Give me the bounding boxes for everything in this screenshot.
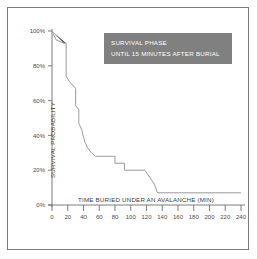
x-tick-label: 120 [141,214,152,220]
x-tick-marks [52,205,241,211]
x-tick-label: 220 [220,214,231,220]
y-tick-label: 60% [33,98,46,104]
y-tick-label: 40% [33,133,46,139]
x-tick-label: 20 [64,214,71,220]
x-tick-label: 200 [204,214,215,220]
y-tick-label: 80% [33,63,46,69]
y-tick-label: 0% [36,202,45,208]
annotation-box: SURVIVAL PHASE UNTIL 15 MINUTES AFTER BU… [104,33,232,64]
y-tick-labels: 0%20%40%60%80%100% [30,28,46,208]
y-tick-label: 100% [30,28,46,34]
y-tick-label: 20% [33,167,46,173]
x-tick-labels: 020406080100120140160180200220240 [50,214,246,220]
x-tick-label: 140 [157,214,168,220]
x-tick-label: 60 [96,214,103,220]
annotation-line-2: UNTIL 15 MINUTES AFTER BURIAL [111,50,220,57]
x-tick-label: 100 [126,214,137,220]
x-tick-label: 160 [173,214,184,220]
x-tick-label: 0 [50,214,54,220]
annotation-box-rect [104,33,232,64]
annotation-line-1: SURVIVAL PHASE [111,39,167,46]
chart-svg: 0%20%40%60%80%100% 020406080100120140160… [0,0,257,259]
x-tick-label: 80 [112,214,119,220]
y-axis-title: SURVIVAL PROBABILITY [49,102,56,178]
x-axis-title: TIME BURIED UNDER AN AVALANCHE (MIN) [78,196,214,203]
x-tick-label: 240 [236,214,247,220]
plot-area: 0%20%40%60%80%100% 020406080100120140160… [0,0,257,259]
avalanche-survival-chart-figure: 0%20%40%60%80%100% 020406080100120140160… [0,0,257,259]
x-tick-label: 40 [80,214,87,220]
x-tick-label: 180 [189,214,200,220]
